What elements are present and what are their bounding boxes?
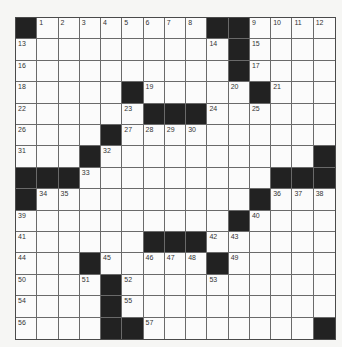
crossword-cell[interactable]	[250, 168, 271, 189]
crossword-cell[interactable]	[80, 318, 101, 339]
crossword-cell[interactable]: 15	[250, 39, 271, 60]
crossword-cell[interactable]	[165, 275, 186, 296]
crossword-cell[interactable]	[80, 39, 101, 60]
crossword-cell[interactable]: 45	[101, 253, 122, 274]
crossword-cell[interactable]: 14	[207, 39, 228, 60]
crossword-cell[interactable]	[165, 39, 186, 60]
crossword-cell[interactable]: 44	[16, 253, 37, 274]
crossword-cell[interactable]	[37, 146, 58, 167]
crossword-cell[interactable]	[59, 211, 80, 232]
crossword-cell[interactable]	[165, 61, 186, 82]
crossword-cell[interactable]	[101, 39, 122, 60]
crossword-cell[interactable]	[292, 211, 313, 232]
crossword-cell[interactable]	[59, 104, 80, 125]
crossword-cell[interactable]: 29	[165, 125, 186, 146]
crossword-cell[interactable]	[144, 61, 165, 82]
crossword-cell[interactable]: 7	[165, 18, 186, 39]
crossword-cell[interactable]	[144, 296, 165, 317]
crossword-cell[interactable]	[122, 146, 143, 167]
crossword-cell[interactable]	[292, 146, 313, 167]
crossword-cell[interactable]	[80, 61, 101, 82]
crossword-cell[interactable]	[80, 104, 101, 125]
crossword-cell[interactable]: 20	[229, 82, 250, 103]
crossword-cell[interactable]	[207, 82, 228, 103]
crossword-cell[interactable]	[165, 168, 186, 189]
crossword-cell[interactable]	[80, 232, 101, 253]
crossword-cell[interactable]	[165, 296, 186, 317]
crossword-cell[interactable]: 32	[101, 146, 122, 167]
crossword-cell[interactable]: 31	[16, 146, 37, 167]
crossword-cell[interactable]	[59, 275, 80, 296]
crossword-cell[interactable]: 12	[314, 18, 335, 39]
crossword-cell[interactable]	[144, 211, 165, 232]
crossword-cell[interactable]	[271, 61, 292, 82]
crossword-cell[interactable]	[37, 39, 58, 60]
crossword-cell[interactable]: 26	[16, 125, 37, 146]
crossword-cell[interactable]	[271, 296, 292, 317]
crossword-cell[interactable]: 35	[59, 189, 80, 210]
crossword-cell[interactable]	[37, 318, 58, 339]
crossword-cell[interactable]: 18	[16, 82, 37, 103]
crossword-cell[interactable]	[292, 296, 313, 317]
crossword-cell[interactable]	[292, 275, 313, 296]
crossword-cell[interactable]	[186, 296, 207, 317]
crossword-cell[interactable]	[59, 125, 80, 146]
crossword-cell[interactable]: 49	[229, 253, 250, 274]
crossword-cell[interactable]	[37, 275, 58, 296]
crossword-cell[interactable]	[229, 146, 250, 167]
crossword-cell[interactable]	[186, 82, 207, 103]
crossword-cell[interactable]	[229, 318, 250, 339]
crossword-cell[interactable]: 1	[37, 18, 58, 39]
crossword-cell[interactable]: 50	[16, 275, 37, 296]
crossword-cell[interactable]	[80, 82, 101, 103]
crossword-cell[interactable]: 43	[229, 232, 250, 253]
crossword-cell[interactable]	[144, 275, 165, 296]
crossword-cell[interactable]	[165, 189, 186, 210]
crossword-cell[interactable]	[314, 39, 335, 60]
crossword-cell[interactable]	[271, 125, 292, 146]
crossword-cell[interactable]	[314, 125, 335, 146]
crossword-cell[interactable]	[122, 253, 143, 274]
crossword-cell[interactable]	[271, 146, 292, 167]
crossword-cell[interactable]	[122, 61, 143, 82]
crossword-cell[interactable]	[37, 61, 58, 82]
crossword-cell[interactable]: 8	[186, 18, 207, 39]
crossword-cell[interactable]	[186, 318, 207, 339]
crossword-cell[interactable]	[207, 168, 228, 189]
crossword-cell[interactable]: 53	[207, 275, 228, 296]
crossword-cell[interactable]	[186, 189, 207, 210]
crossword-cell[interactable]	[292, 232, 313, 253]
crossword-cell[interactable]	[59, 232, 80, 253]
crossword-cell[interactable]	[207, 296, 228, 317]
crossword-cell[interactable]	[314, 61, 335, 82]
crossword-cell[interactable]	[186, 211, 207, 232]
crossword-cell[interactable]	[292, 61, 313, 82]
crossword-cell[interactable]	[229, 189, 250, 210]
crossword-cell[interactable]	[314, 211, 335, 232]
crossword-cell[interactable]	[101, 189, 122, 210]
crossword-cell[interactable]	[250, 146, 271, 167]
crossword-cell[interactable]	[292, 125, 313, 146]
crossword-cell[interactable]	[37, 253, 58, 274]
crossword-cell[interactable]	[101, 211, 122, 232]
crossword-cell[interactable]: 39	[16, 211, 37, 232]
crossword-cell[interactable]	[292, 318, 313, 339]
crossword-cell[interactable]	[292, 253, 313, 274]
crossword-cell[interactable]	[144, 146, 165, 167]
crossword-cell[interactable]	[271, 104, 292, 125]
crossword-cell[interactable]	[271, 318, 292, 339]
crossword-cell[interactable]	[144, 189, 165, 210]
crossword-cell[interactable]: 16	[16, 61, 37, 82]
crossword-cell[interactable]	[101, 61, 122, 82]
crossword-cell[interactable]: 2	[59, 18, 80, 39]
crossword-cell[interactable]	[229, 125, 250, 146]
crossword-cell[interactable]	[80, 211, 101, 232]
crossword-cell[interactable]	[101, 104, 122, 125]
crossword-cell[interactable]: 27	[122, 125, 143, 146]
crossword-cell[interactable]: 42	[207, 232, 228, 253]
crossword-cell[interactable]: 23	[122, 104, 143, 125]
crossword-cell[interactable]	[229, 104, 250, 125]
crossword-cell[interactable]	[101, 168, 122, 189]
crossword-cell[interactable]	[207, 189, 228, 210]
crossword-cell[interactable]	[314, 253, 335, 274]
